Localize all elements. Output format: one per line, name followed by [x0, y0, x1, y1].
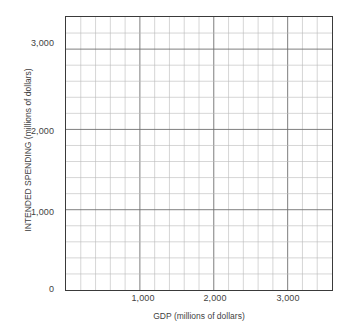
plot-area[interactable] — [65, 16, 333, 291]
chart-figure: 3,000 2,000 1,000 0 1,000 2,000 3,000 GD… — [0, 0, 345, 332]
y-axis-title: INTENDED SPENDING (millions of dollars) — [23, 13, 33, 288]
x-tick-label-1000: 1,000 — [120, 293, 166, 303]
grid-lines — [66, 17, 332, 290]
x-axis-title: GDP (millions of dollars) — [65, 311, 333, 321]
x-tick-label-3000: 3,000 — [265, 293, 311, 303]
x-tick-label-2000: 2,000 — [192, 293, 238, 303]
